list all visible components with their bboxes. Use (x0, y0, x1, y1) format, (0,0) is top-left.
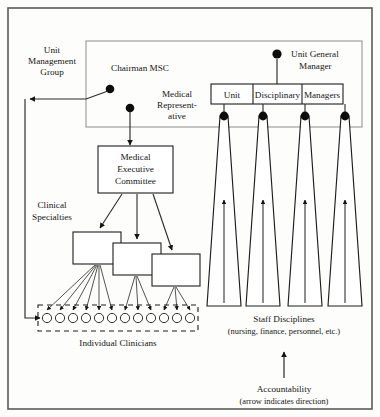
ugm-label-line2: Manager (299, 61, 332, 71)
clinician-circle (94, 313, 103, 322)
medical-rep-line3: ative (168, 111, 186, 121)
staff-disciplines-label: Staff Disciplines (253, 314, 315, 324)
accountability-label: Accountability (257, 384, 312, 394)
umg-label-line3: Group (40, 67, 64, 77)
mec-label-line3: Committee (115, 176, 156, 186)
accountability-detail: (arrow indicates direction) (240, 397, 329, 406)
clinician-circle (159, 313, 168, 322)
clinician-circle (55, 313, 64, 322)
unit-general-manager-node (272, 49, 281, 58)
clinician-circle (81, 313, 90, 322)
clinician-circle (185, 313, 194, 322)
chairman-msc-label: Chairman MSC (111, 63, 169, 73)
mec-label-line2: Executive (117, 164, 154, 174)
clinical-specialty-box-3 (152, 254, 200, 286)
medical-rep-line2: Represent- (157, 100, 197, 110)
clinical-specialties-line1: Clinical (37, 200, 67, 210)
staff-discipline-node-4 (341, 112, 350, 121)
clinical-specialties-line2: Specialties (32, 212, 72, 222)
umg-label-line2: Management (28, 56, 76, 66)
clinician-circle (68, 313, 77, 322)
clinician-circle (120, 313, 129, 322)
clinician-circle (146, 313, 155, 322)
clinician-circle (107, 313, 116, 322)
mec-label-line1: Medical (120, 152, 151, 162)
staff-disciplines-detail: (nursing, finance, personnel, etc.) (228, 327, 341, 336)
organizational-diagram: Unit Management Group Chairman MSC Medic… (0, 0, 380, 417)
staff-discipline-node-3 (301, 112, 310, 121)
staff-discipline-node-1 (220, 112, 229, 121)
umg-label-line1: Unit (44, 45, 61, 55)
diagram-canvas: Unit Management Group Chairman MSC Medic… (0, 0, 380, 417)
chairman-msc-node (106, 85, 115, 94)
clinician-circle (42, 313, 51, 322)
manager-cell-disciplinary: Disciplinary (255, 90, 301, 100)
medical-rep-node (126, 104, 135, 113)
ugm-label-line1: Unit General (291, 49, 339, 59)
manager-cell-unit: Unit (224, 90, 241, 100)
staff-discipline-node-2 (259, 112, 268, 121)
clinician-circle (133, 313, 142, 322)
clinician-circle (172, 313, 181, 322)
individual-clinicians-label: Individual Clinicians (79, 338, 157, 348)
manager-cell-managers: Managers (304, 90, 341, 100)
medical-rep-line1: Medical (162, 89, 193, 99)
